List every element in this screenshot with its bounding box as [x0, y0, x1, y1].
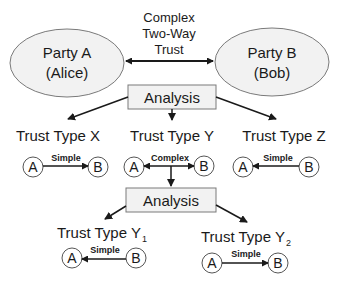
type-y1-node-b: B — [131, 250, 140, 266]
type-x-graph: A B Simple — [23, 153, 108, 177]
party-b-alias: (Bob) — [254, 64, 291, 81]
analysis-1-label: Analysis — [144, 89, 200, 106]
type-z-node-a: A — [238, 159, 248, 175]
type-y1-title: Trust Type Y1 — [57, 224, 147, 244]
type-y2-edge-label: Simple — [231, 249, 261, 259]
type-y1-title-text: Trust Type Y — [57, 224, 141, 241]
arrow-to-type-z — [216, 97, 276, 119]
two-way-trust-relation: Complex Two-Way Trust — [126, 10, 213, 61]
type-x-edge-label: Simple — [51, 153, 81, 163]
party-b-node: Party B (Bob) — [215, 28, 329, 96]
relation-label-line2: Two-Way — [142, 26, 196, 41]
trust-diagram: Party A (Alice) Party B (Bob) Complex Tw… — [0, 0, 337, 287]
analysis-2-label: Analysis — [143, 192, 199, 209]
type-z-title: Trust Type Z — [242, 127, 325, 144]
type-y2-graph: Trust Type Y2 A B Simple — [201, 228, 291, 273]
type-y1-graph: Trust Type Y1 A B Simple — [57, 224, 147, 268]
arrow-to-type-y2 — [216, 205, 247, 222]
type-x-node-a: A — [28, 159, 38, 175]
arrow-to-type-y1 — [105, 206, 126, 219]
party-a-name: Party A — [43, 44, 91, 61]
party-a-alias: (Alice) — [46, 64, 89, 81]
party-b-name: Party B — [247, 44, 296, 61]
party-a-node: Party A (Alice) — [10, 29, 124, 97]
type-y2-title: Trust Type Y2 — [201, 228, 291, 248]
type-y1-edge-label: Simple — [90, 245, 120, 255]
type-z-graph: A B Simple — [233, 153, 319, 177]
type-y-title: Trust Type Y — [130, 127, 214, 144]
analysis-box-1: Analysis — [128, 85, 216, 109]
type-y1-node-a: A — [67, 250, 77, 266]
type-y-graph: A B Complex — [124, 153, 214, 186]
type-y-node-a: A — [129, 159, 139, 175]
type-x-node-b: B — [93, 159, 102, 175]
type-y2-node-b: B — [273, 255, 282, 271]
type-y2-title-text: Trust Type Y — [201, 228, 285, 245]
type-y2-node-a: A — [207, 255, 217, 271]
type-y1-subscript: 1 — [142, 234, 147, 244]
arrow-to-type-x — [68, 97, 128, 119]
analysis-box-2: Analysis — [126, 188, 216, 212]
type-y2-subscript: 2 — [286, 238, 291, 248]
relation-label-line3: Trust — [154, 42, 184, 57]
type-z-node-b: B — [304, 159, 313, 175]
type-y-edge-label: Complex — [151, 153, 189, 163]
type-z-edge-label: Simple — [263, 153, 293, 163]
relation-label-line1: Complex — [143, 10, 195, 25]
type-y-node-b: B — [199, 158, 208, 174]
type-x-title: Trust Type X — [16, 127, 100, 144]
